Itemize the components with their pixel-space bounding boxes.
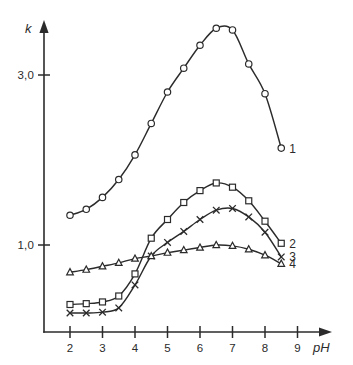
curve-label-4: 4 bbox=[289, 257, 296, 271]
chart-figure: 1,03,0 23456789 1234 k pH bbox=[0, 0, 353, 365]
ph-activity-line-chart: 1,03,0 23456789 1234 k pH bbox=[0, 0, 353, 365]
x-tick-label: 8 bbox=[262, 342, 269, 354]
data-point-marker-circle bbox=[262, 91, 268, 97]
x-tick-label: 3 bbox=[99, 342, 106, 354]
data-point-marker-circle bbox=[99, 194, 105, 200]
data-point-marker-square bbox=[83, 301, 89, 307]
data-point-marker-square bbox=[100, 299, 106, 305]
curve-label-1: 1 bbox=[289, 142, 296, 156]
plot-background bbox=[0, 0, 353, 365]
data-point-marker-square bbox=[213, 180, 219, 186]
data-point-marker-square bbox=[132, 271, 138, 277]
data-point-marker-square bbox=[116, 293, 122, 299]
data-point-marker-square bbox=[246, 198, 252, 204]
x-tick-label: 2 bbox=[67, 342, 74, 354]
x-tick-label: 7 bbox=[229, 342, 236, 354]
data-point-marker-square bbox=[262, 218, 268, 224]
data-point-marker-circle bbox=[197, 42, 203, 48]
data-point-marker-circle bbox=[181, 65, 187, 71]
data-point-marker-circle bbox=[246, 61, 252, 67]
curve-label-2: 2 bbox=[289, 237, 296, 251]
data-point-marker-square bbox=[197, 188, 203, 194]
data-point-marker-circle bbox=[67, 212, 73, 218]
x-tick-label: 4 bbox=[132, 342, 139, 354]
data-point-marker-circle bbox=[148, 120, 154, 126]
x-tick-label: 6 bbox=[197, 342, 204, 354]
x-axis-title: pH bbox=[312, 340, 330, 355]
x-tick-label: 5 bbox=[164, 342, 171, 354]
y-tick-label: 1,0 bbox=[17, 239, 34, 251]
data-point-marker-circle bbox=[83, 206, 89, 212]
data-point-marker-square bbox=[181, 200, 187, 206]
data-point-marker-square bbox=[165, 217, 171, 223]
y-tick-label: 3,0 bbox=[17, 69, 34, 81]
data-point-marker-circle bbox=[116, 176, 122, 182]
data-point-marker-circle bbox=[132, 152, 138, 158]
data-point-marker-circle bbox=[213, 25, 219, 31]
data-point-marker-square bbox=[230, 184, 236, 190]
data-point-marker-square bbox=[278, 240, 284, 246]
data-point-marker-circle bbox=[278, 145, 284, 151]
data-point-marker-circle bbox=[229, 27, 235, 33]
x-tick-label: 9 bbox=[294, 342, 301, 354]
data-point-marker-circle bbox=[164, 89, 170, 95]
data-point-marker-square bbox=[148, 235, 154, 241]
data-point-marker-square bbox=[67, 302, 73, 308]
